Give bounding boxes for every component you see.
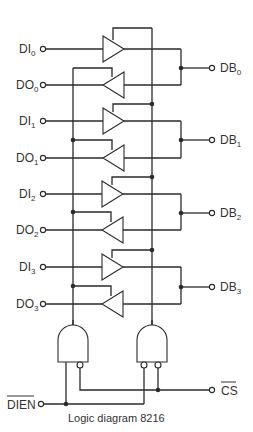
and-gate-right: [137, 320, 167, 404]
input-labels: DI0 DO0 DI1 DO1 DI2 DO2 DI3 DO3: [16, 42, 39, 313]
pin-db2: [209, 210, 214, 215]
do-driver-2: [102, 217, 123, 243]
svg-text:DI2: DI2: [19, 187, 36, 203]
diagram-caption: Logic diagram 8216: [68, 412, 165, 424]
pin-di3: [40, 264, 45, 269]
bus-pins: [209, 65, 214, 289]
svg-text:DI3: DI3: [19, 260, 36, 276]
svg-text:DO1: DO1: [16, 151, 39, 167]
pin-db1: [209, 137, 214, 142]
pin-do3: [40, 301, 45, 306]
bus-labels: DB0 DB1 DB2 DB3: [220, 61, 242, 296]
pin-do2: [40, 227, 45, 232]
do-driver-3: [102, 291, 123, 317]
pin-cs: [209, 387, 214, 392]
svg-text:DI1: DI1: [19, 114, 36, 130]
channel-0: [46, 28, 209, 98]
svg-text:DO0: DO0: [16, 78, 39, 94]
pin-di2: [40, 191, 45, 196]
svg-text:DI0: DI0: [19, 42, 36, 58]
pin-db3: [209, 284, 214, 289]
pin-do1: [40, 155, 45, 160]
pin-di1: [40, 118, 45, 123]
channel-2: [46, 175, 209, 243]
svg-text:DO3: DO3: [16, 297, 39, 313]
input-pins: [40, 46, 45, 306]
svg-text:DB1: DB1: [220, 133, 242, 149]
svg-text:DO2: DO2: [16, 223, 39, 239]
dien-label: DIEN: [7, 398, 36, 412]
do-driver-0: [103, 72, 124, 98]
svg-text:DB3: DB3: [220, 280, 242, 296]
pin-dien: [38, 401, 43, 406]
pin-do0: [40, 82, 45, 87]
do-driver-1: [103, 145, 124, 171]
pin-db0: [209, 65, 214, 70]
cs-label: CS: [221, 384, 238, 398]
svg-text:DB2: DB2: [220, 206, 242, 222]
channel-1: [46, 102, 209, 171]
channel-3: [46, 248, 209, 317]
logic-diagram: DI0 DO0 DI1 DO1 DI2 DO2 DI3 DO3 DB0 DB1 …: [0, 0, 253, 432]
pin-di0: [40, 46, 45, 51]
svg-text:DB0: DB0: [220, 61, 242, 77]
